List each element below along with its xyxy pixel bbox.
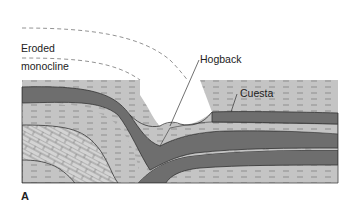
monocline-diagram [0,0,355,205]
monocline-label: monocline [21,61,69,72]
eroded-label: Eroded [21,43,55,54]
hogback-label: Hogback [200,54,241,65]
panel-label: A [21,191,29,202]
cuesta-sandstone-layer [212,112,338,124]
cuesta-label: Cuesta [240,88,273,99]
